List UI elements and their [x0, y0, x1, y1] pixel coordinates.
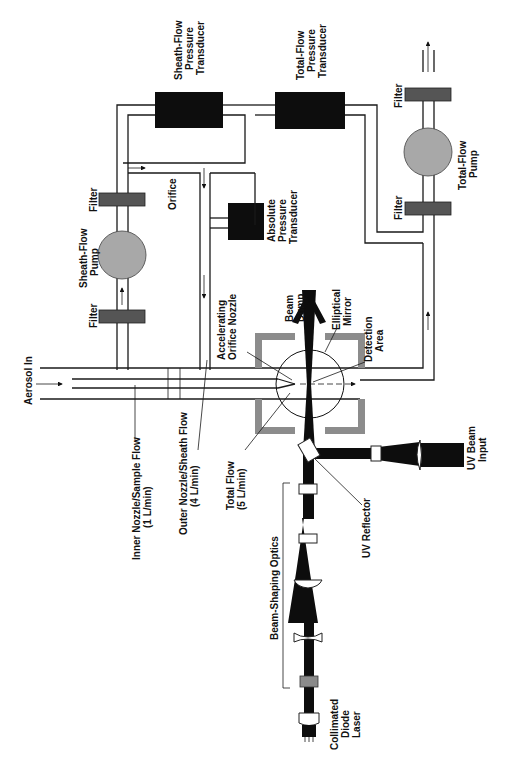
- filter-sheath-bottom: [99, 310, 145, 323]
- elliptical-mirror-label: Elliptical Mirror: [331, 286, 353, 330]
- inner-nozzle-label: Inner Nozzle/Sample Flow (1 L/min): [131, 434, 153, 560]
- total-flow-label: Total Flow (5 L/min): [225, 459, 247, 510]
- filter-total-top: [405, 88, 451, 101]
- collimated-diode-laser: [299, 713, 319, 726]
- accelerating-orifice-nozzle-label: Accelerating Orifice Nozzle: [216, 293, 238, 360]
- uv-reflector-label: UV Reflector: [361, 498, 372, 558]
- total-flow-pump: [404, 128, 452, 176]
- filter-sheath-top: [99, 193, 145, 206]
- sheath-flow-pump: [98, 231, 146, 279]
- laser-beam-path: [288, 384, 464, 722]
- aerosol-in-label: Aerosol In: [23, 356, 34, 405]
- total-flow-pump-label: Total-Flow Pump: [457, 138, 479, 190]
- optic-element-1: [299, 484, 317, 494]
- sheath-flow-pressure-transducer: [155, 92, 223, 128]
- filter-total-bottom: [405, 202, 451, 215]
- absolute-pressure-transducer: [228, 203, 264, 240]
- diagram-canvas: Sheath-Flow Pressure Transducer Filter S…: [0, 0, 510, 765]
- filter-label: Filter: [393, 195, 404, 220]
- beam-shaping-optics-label: Beam-Shaping Optics: [269, 536, 280, 640]
- filter-label: Filter: [393, 83, 404, 108]
- optic-element-gray: [300, 676, 318, 687]
- total-flow-pressure-transducer: [275, 92, 345, 129]
- beam-shaping-bracket: [283, 483, 290, 688]
- uv-beam-lens-1: [371, 446, 381, 461]
- orifice-label: Orifice: [167, 178, 178, 210]
- outer-nozzle-label: Outer Nozzle/Sheath Flow (4 L/min): [178, 409, 200, 535]
- absolute-transducer-label: Absolute Pressure Transducer: [266, 190, 299, 244]
- optic-element-2: [299, 534, 317, 543]
- filter-label: Filter: [88, 303, 99, 328]
- total-flow-transducer-label: Total-Flow Pressure Transducer: [295, 24, 328, 80]
- sheath-flow-transducer-label: Sheath-Flow Pressure Transducer: [173, 18, 206, 80]
- uv-beam-input-label: UV Beam Input: [466, 423, 488, 470]
- detection-area-label: Detection Area: [363, 314, 385, 362]
- beam-dump-label: Beam Dump: [284, 292, 306, 322]
- filter-label: Filter: [88, 187, 99, 212]
- collimated-diode-laser-label: Collimated Diode Laser: [329, 696, 362, 750]
- sheath-flow-pump-label: Sheath-Flow Pump: [78, 226, 100, 288]
